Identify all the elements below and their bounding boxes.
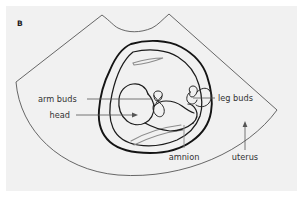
head-label: head xyxy=(50,110,70,120)
arm-buds-label: arm buds xyxy=(38,94,77,104)
head-leader-arrowhead xyxy=(132,113,138,118)
uterus-annotation: uterus xyxy=(232,121,258,162)
embryo-neck xyxy=(148,94,154,106)
panel-letter-label: B xyxy=(17,19,23,28)
uterus-leader-arrowhead xyxy=(243,121,248,127)
arm-bud-pair xyxy=(153,91,164,117)
ultrasound-diagram: B xyxy=(0,0,303,197)
sector-top-arc xyxy=(102,14,169,32)
arm-buds-annotation: arm buds xyxy=(38,94,152,104)
amnion-label: amnion xyxy=(169,152,200,162)
uterus-label: uterus xyxy=(232,152,258,162)
embryo-rump xyxy=(188,104,197,123)
echo-streak-bottom-2 xyxy=(134,130,183,145)
embryo-head xyxy=(119,84,154,125)
sector-left-edge xyxy=(16,15,102,82)
echo-streak-top xyxy=(133,58,163,65)
leg-bud-pair xyxy=(187,86,212,107)
figure-container: B xyxy=(0,0,303,197)
leg-buds-label: leg buds xyxy=(218,93,253,103)
arm-bud-upper xyxy=(154,91,163,101)
leg-bud-upper xyxy=(189,86,197,97)
leg-bud-outer xyxy=(196,88,211,106)
